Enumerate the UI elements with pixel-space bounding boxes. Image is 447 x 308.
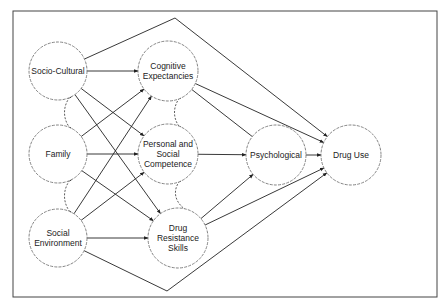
node-label: Environment	[34, 238, 82, 248]
edge-cog-to-psych	[192, 89, 253, 136]
node-label: Drug Use	[333, 150, 369, 160]
node-druguse: Drug Use	[321, 125, 381, 185]
correlation-cog-psc	[175, 96, 183, 130]
node-label: Expectancies	[143, 71, 194, 81]
node-drs: DrugResistanceSkills	[148, 208, 208, 268]
node-label: Drug	[169, 223, 188, 233]
node-label: Competence	[144, 159, 192, 169]
node-label: Skills	[168, 243, 188, 253]
edge-drs-to-psych	[201, 174, 253, 218]
node-socio: Socio-Cultural	[29, 42, 87, 100]
edge-family-to-cog	[81, 89, 144, 136]
node-psc: Personal andSocialCompetence	[138, 124, 198, 184]
node-label: Psychological	[250, 150, 302, 160]
node-socenv: SocialEnvironment	[29, 209, 87, 267]
edge-socenv-to-psc	[81, 172, 144, 220]
node-cog: CognitiveExpectancies	[138, 41, 198, 101]
node-label: Social	[46, 228, 69, 238]
node-psych: Psychological	[246, 125, 306, 185]
node-label: Family	[45, 149, 71, 159]
node-label: Social	[156, 149, 179, 159]
edge-family-to-drs	[82, 171, 154, 221]
correlation-socio-family	[65, 95, 73, 130]
node-label: Personal and	[143, 139, 193, 149]
path-diagram: Socio-CulturalCognitiveExpectanciesFamil…	[0, 0, 447, 308]
node-label: Resistance	[157, 233, 199, 243]
edge-socio-to-psc	[81, 88, 144, 135]
node-label: Cognitive	[150, 61, 186, 71]
node-label: Socio-Cultural	[31, 66, 84, 76]
correlation-family-socenv	[65, 178, 73, 214]
node-family: Family	[29, 125, 87, 183]
